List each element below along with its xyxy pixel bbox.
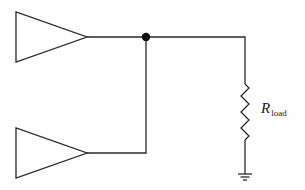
top-output-wire (87, 37, 245, 84)
load-resistor-icon (241, 84, 249, 140)
top-amplifier-icon (16, 12, 87, 62)
resistor-label-subscript: load (271, 108, 287, 118)
resistor-label-main: R (261, 100, 270, 116)
bottom-amplifier-icon (16, 128, 87, 178)
ground-icon (238, 174, 252, 180)
junction-dot-icon (142, 33, 150, 41)
resistor-label: Rload (261, 99, 287, 118)
circuit-diagram (0, 0, 305, 190)
bottom-output-wire (87, 37, 146, 153)
